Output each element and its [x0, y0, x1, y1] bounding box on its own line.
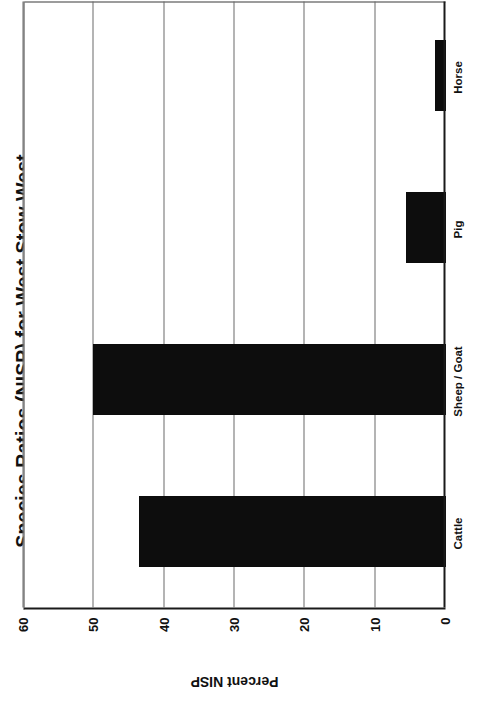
value-tick-label-50: 50: [86, 617, 101, 657]
value-axis-title: Percent NISP: [190, 673, 278, 689]
value-tick-label-30: 30: [227, 617, 242, 657]
gridline-60: [22, 1, 23, 607]
bar-pig: [406, 192, 445, 262]
bar-sheep-goat: [93, 344, 445, 414]
plot-area: [23, 1, 445, 609]
category-label-sheep-goat: Sheep / Goat: [451, 346, 463, 416]
category-label-cattle: Cattle: [451, 517, 463, 549]
bar-chart-figure: Species Ratios (NISP) for West Stow West…: [0, 0, 485, 701]
value-tick-label-10: 10: [367, 617, 382, 657]
value-tick-label-20: 20: [297, 617, 312, 657]
value-tick-label-0: 0: [438, 617, 453, 657]
plot-frame-right: [24, 1, 445, 2]
bar-cattle: [139, 496, 445, 566]
gridline-50: [92, 1, 93, 607]
scanned-page: Species Ratios (NISP) for West Stow West…: [0, 0, 485, 701]
category-label-horse: Horse: [451, 61, 463, 94]
category-label-pig: Pig: [451, 220, 463, 238]
value-tick-label-40: 40: [156, 617, 171, 657]
value-tick-label-60: 60: [16, 617, 31, 657]
value-axis-baseline: [443, 1, 445, 607]
